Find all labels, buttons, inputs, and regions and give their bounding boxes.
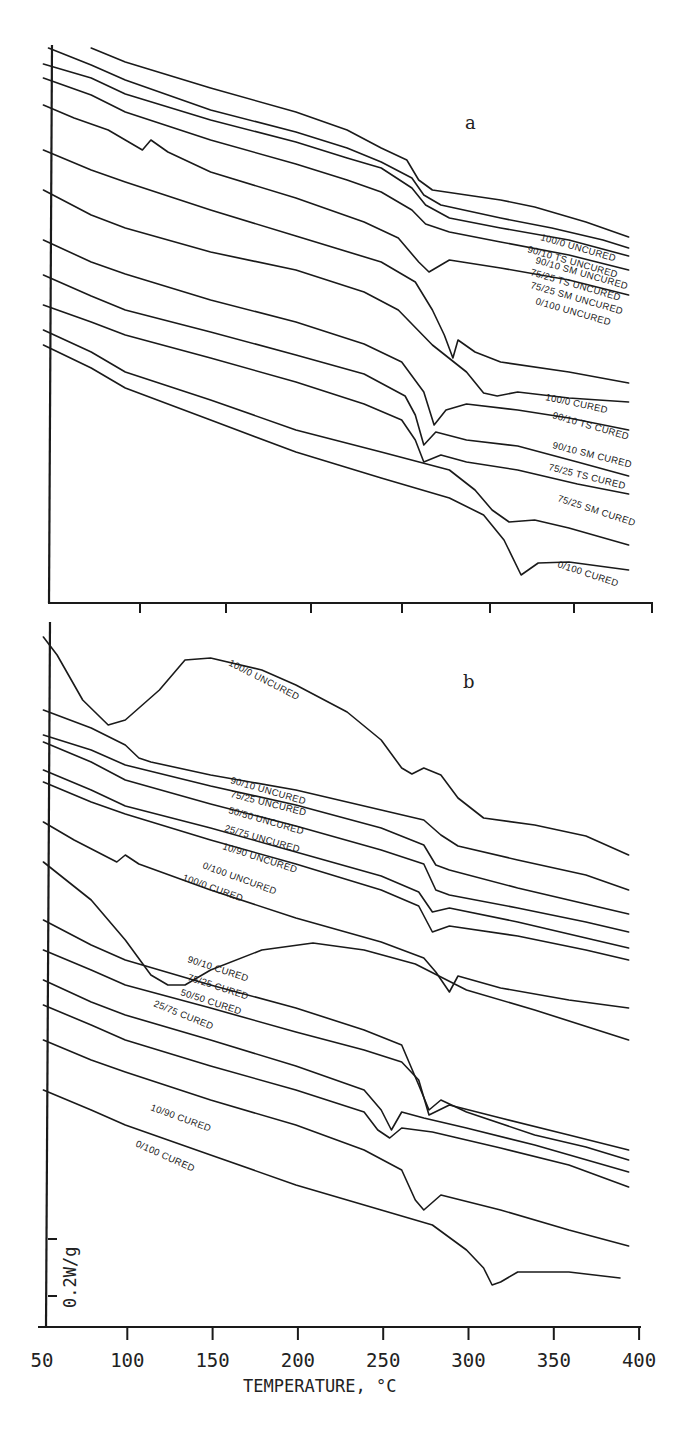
curve-75-25-cured <box>43 950 628 1150</box>
panel-b-axes: 0.2W/g <box>38 622 641 1340</box>
panel-a-label: a <box>465 112 476 133</box>
x-tick-label: 150 <box>195 1349 229 1371</box>
curve-100-0-uncured <box>91 48 628 237</box>
panel-a-curves: 100/0 UNCURED90/10 TS UNCURED90/10 SM UN… <box>43 48 637 589</box>
panel-b-y-axis <box>46 622 50 1327</box>
scale-bar-label: 0.2W/g <box>60 1247 80 1308</box>
x-tick-label: 50 <box>31 1349 54 1371</box>
panel-a-y-axis <box>49 45 52 603</box>
curve-100-0-uncured <box>43 637 628 855</box>
curve-0-100-cured <box>43 1090 620 1285</box>
curve-10-90-cured <box>43 1040 628 1246</box>
dsc-thermogram-chart: a 100/0 UNCURED90/10 TS UNCURED90/10 SM … <box>0 0 685 1449</box>
curve-label: 90/10 TS CURED <box>551 409 630 441</box>
x-tick-labels: 50100150200250300350400 <box>31 1349 657 1371</box>
x-tick-label: 250 <box>366 1349 400 1371</box>
curve-label: 100/0 UNCURED <box>227 657 301 702</box>
curve-0-100-uncured <box>43 822 628 1008</box>
curve-label: 75/25 SM CURED <box>556 492 637 528</box>
curve-0-100-cured <box>43 345 628 575</box>
curve-50-50-cured <box>43 980 628 1172</box>
panel-b-curves: 100/0 UNCURED90/10 UNCURED75/25 UNCURED5… <box>43 637 628 1285</box>
panel-b-ticks <box>127 1327 639 1340</box>
curve-75-25-sm-cured <box>43 330 628 545</box>
x-tick-label: 100 <box>110 1349 144 1371</box>
curve-75-25-ts-cured <box>43 305 628 494</box>
curve-90-10-sm-uncured <box>43 64 628 256</box>
panel-a-ticks <box>140 603 652 613</box>
curve-100-0-cured <box>43 862 628 1040</box>
curve-10-90-uncured <box>43 782 628 960</box>
curve-label: 10/90 CURED <box>149 1102 212 1134</box>
curve-label: 0/100 CURED <box>556 558 620 588</box>
x-tick-label: 400 <box>622 1349 656 1371</box>
curve-25-75-cured <box>43 1005 628 1187</box>
curve-90-10-cured <box>43 920 628 1160</box>
curve-label: 0/100 CURED <box>134 1138 196 1174</box>
curve-75-25-uncured <box>43 735 628 914</box>
panel-b-label: b <box>463 671 475 692</box>
x-tick-label: 200 <box>281 1349 315 1371</box>
x-tick-label: 350 <box>537 1349 571 1371</box>
panel-a-axes <box>48 45 653 613</box>
x-axis-label: TEMPERATURE, °C <box>243 1376 397 1396</box>
curve-50-50-uncured <box>43 742 628 932</box>
x-tick-label: 300 <box>451 1349 485 1371</box>
curve-90-10-ts-uncured <box>49 48 629 248</box>
